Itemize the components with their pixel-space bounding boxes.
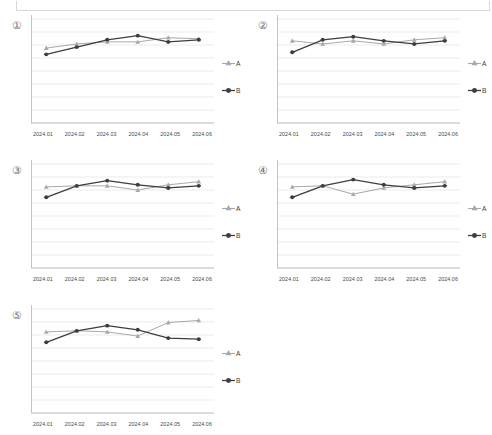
chart-panel-2: ② 2024.012024.022024.032024.042024.05202… bbox=[246, 12, 492, 157]
panel-number-1: ① bbox=[9, 18, 24, 33]
x-tick-label: 2024.03 bbox=[91, 419, 123, 433]
legend-label: A bbox=[236, 203, 240, 214]
x-tick-label: 2024.04 bbox=[122, 274, 154, 288]
legend-2: AB bbox=[468, 58, 492, 112]
chart-panel-4: ④ 2024.012024.022024.032024.042024.05202… bbox=[246, 157, 492, 302]
legend-item-b[interactable]: B bbox=[468, 230, 492, 241]
diamond-marker-icon bbox=[222, 230, 235, 241]
legend-item-b[interactable]: B bbox=[468, 85, 492, 96]
plot-area-3 bbox=[31, 160, 214, 272]
diamond-marker-icon bbox=[468, 230, 481, 241]
triangle-marker-icon bbox=[468, 58, 481, 69]
x-tick-label: 2024.01 bbox=[273, 129, 305, 143]
diamond-marker-icon bbox=[222, 85, 235, 96]
legend-label: A bbox=[236, 58, 240, 69]
x-tick-label: 2024.06 bbox=[186, 129, 218, 143]
x-tick-label: 2024.02 bbox=[59, 129, 91, 143]
plot-area-2 bbox=[277, 15, 460, 127]
legend-label: B bbox=[236, 85, 240, 96]
legend-1: AB bbox=[222, 58, 248, 112]
x-tick-label: 2024.04 bbox=[122, 129, 154, 143]
triangle-marker-icon bbox=[222, 203, 235, 214]
x-tick-label: 2024.02 bbox=[305, 129, 337, 143]
triangle-marker-icon bbox=[468, 203, 481, 214]
legend-label: A bbox=[236, 348, 240, 359]
legend-4: AB bbox=[468, 203, 492, 257]
x-tick-label: 2024.02 bbox=[305, 274, 337, 288]
x-tick-label: 2024.04 bbox=[122, 419, 154, 433]
x-tick-label: 2024.01 bbox=[27, 274, 59, 288]
x-tick-label: 2024.02 bbox=[59, 274, 91, 288]
legend-label: B bbox=[236, 375, 240, 386]
diamond-marker-icon bbox=[222, 375, 235, 386]
chart-panel-3: ③ 2024.012024.022024.032024.042024.05202… bbox=[0, 157, 246, 302]
x-tick-label: 2024.06 bbox=[432, 274, 464, 288]
legend-item-a[interactable]: A bbox=[222, 203, 248, 214]
x-tick-label: 2024.06 bbox=[186, 419, 218, 433]
x-tick-label: 2024.03 bbox=[337, 274, 369, 288]
panel-number-2: ② bbox=[255, 18, 270, 33]
x-tick-label: 2024.01 bbox=[27, 129, 59, 143]
legend-5: AB bbox=[222, 348, 248, 402]
x-tick-label: 2024.05 bbox=[154, 274, 186, 288]
x-tick-label: 2024.01 bbox=[273, 274, 305, 288]
legend-label: B bbox=[482, 230, 486, 241]
chart-grid-page: ① 2024.012024.022024.032024.042024.05202… bbox=[0, 0, 492, 435]
triangle-marker-icon bbox=[222, 348, 235, 359]
x-tick-label: 2024.04 bbox=[368, 129, 400, 143]
chart-panel-1: ① 2024.012024.022024.032024.042024.05202… bbox=[0, 12, 246, 157]
legend-label: A bbox=[482, 58, 486, 69]
x-tick-label: 2024.04 bbox=[368, 274, 400, 288]
legend-item-b[interactable]: B bbox=[222, 85, 248, 96]
plot-area-5 bbox=[31, 305, 214, 417]
x-axis-labels-3: 2024.012024.022024.032024.042024.052024.… bbox=[27, 274, 218, 288]
legend-3: AB bbox=[222, 203, 248, 257]
legend-label: B bbox=[236, 230, 240, 241]
x-tick-label: 2024.06 bbox=[432, 129, 464, 143]
legend-item-a[interactable]: A bbox=[468, 58, 492, 69]
x-tick-label: 2024.06 bbox=[186, 274, 218, 288]
x-tick-label: 2024.03 bbox=[337, 129, 369, 143]
triangle-marker-icon bbox=[222, 58, 235, 69]
x-axis-labels-1: 2024.012024.022024.032024.042024.052024.… bbox=[27, 129, 218, 143]
chart-panel-5: ⑤ 2024.012024.022024.032024.042024.05202… bbox=[0, 302, 246, 435]
plot-area-4 bbox=[277, 160, 460, 272]
x-tick-label: 2024.05 bbox=[400, 274, 432, 288]
x-axis-labels-5: 2024.012024.022024.032024.042024.052024.… bbox=[27, 419, 218, 433]
legend-item-b[interactable]: B bbox=[222, 375, 248, 386]
panel-number-3: ③ bbox=[9, 163, 24, 178]
x-tick-label: 2024.05 bbox=[154, 419, 186, 433]
legend-label: B bbox=[482, 85, 486, 96]
x-tick-label: 2024.05 bbox=[400, 129, 432, 143]
x-tick-label: 2024.02 bbox=[59, 419, 91, 433]
legend-item-b[interactable]: B bbox=[222, 230, 248, 241]
x-tick-label: 2024.03 bbox=[91, 274, 123, 288]
x-axis-labels-4: 2024.012024.022024.032024.042024.052024.… bbox=[273, 274, 464, 288]
x-tick-label: 2024.03 bbox=[91, 129, 123, 143]
diamond-marker-icon bbox=[468, 85, 481, 96]
top-frame-bar bbox=[16, 1, 490, 11]
legend-item-a[interactable]: A bbox=[468, 203, 492, 214]
plot-area-1 bbox=[31, 15, 214, 127]
legend-item-a[interactable]: A bbox=[222, 348, 248, 359]
panel-number-5: ⑤ bbox=[9, 308, 24, 323]
x-tick-label: 2024.05 bbox=[154, 129, 186, 143]
legend-item-a[interactable]: A bbox=[222, 58, 248, 69]
panel-number-4: ④ bbox=[255, 163, 270, 178]
x-axis-labels-2: 2024.012024.022024.032024.042024.052024.… bbox=[273, 129, 464, 143]
legend-label: A bbox=[482, 203, 486, 214]
x-tick-label: 2024.01 bbox=[27, 419, 59, 433]
